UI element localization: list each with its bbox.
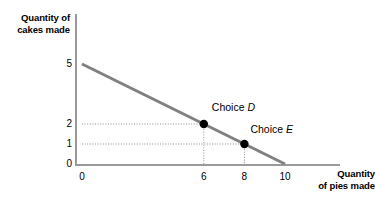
choice-d-label-letter: D	[247, 101, 255, 113]
chart-figure: Quantity of cakes made Quantity of pies …	[0, 0, 375, 204]
plot-area	[0, 0, 375, 204]
guide-line-layer	[82, 124, 244, 164]
choice-d-label: Choice D	[212, 102, 255, 113]
choice-e-marker	[240, 140, 248, 148]
choice-d-marker	[200, 120, 208, 128]
choice-e-label-letter: E	[286, 123, 293, 135]
choice-d-label-prefix: Choice	[212, 101, 248, 113]
budget-line	[82, 64, 285, 164]
series-layer	[82, 64, 285, 164]
choice-e-label: Choice E	[250, 124, 293, 135]
choice-e-label-prefix: Choice	[250, 123, 286, 135]
